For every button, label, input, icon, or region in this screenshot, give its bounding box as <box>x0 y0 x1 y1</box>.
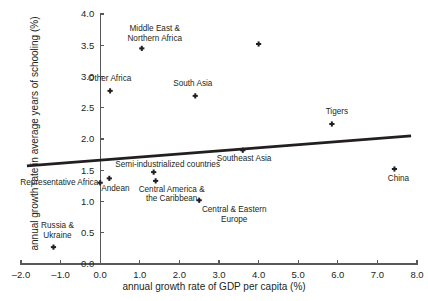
y-tick-label: 4.0 <box>81 8 94 19</box>
data-point <box>392 166 397 171</box>
x-tick-label: 7.0 <box>371 269 384 280</box>
y-tick-label: 2.5 <box>81 102 94 113</box>
data-point <box>139 46 144 51</box>
x-tick-label: 6.0 <box>331 269 344 280</box>
x-tick-label: 0.0 <box>94 269 107 280</box>
data-point-marker <box>393 166 395 171</box>
data-point-marker <box>198 198 200 203</box>
y-tick-label: 3.5 <box>81 40 94 51</box>
data-point-marker <box>52 245 54 250</box>
y-tick-label: 1.0 <box>81 196 94 207</box>
x-tick-label: 1.0 <box>133 269 146 280</box>
x-tick-label: –2.0 <box>12 269 31 280</box>
data-point-marker <box>258 41 260 46</box>
data-point-marker <box>108 176 110 181</box>
data-point <box>153 178 158 183</box>
data-point-marker <box>194 93 196 98</box>
x-tick-label: 3.0 <box>212 269 225 280</box>
data-point <box>98 180 103 185</box>
data-point <box>329 121 334 126</box>
x-tick-label: 2.0 <box>173 269 186 280</box>
data-point <box>108 88 113 93</box>
y-tick-label: 0.0 <box>81 258 94 269</box>
y-tick-label: 0.5 <box>81 227 94 238</box>
x-tick-label: 4.0 <box>252 269 265 280</box>
y-tick-label: 2.0 <box>81 133 94 144</box>
data-point <box>151 170 156 175</box>
data-point <box>256 41 261 46</box>
data-point-marker <box>153 170 155 175</box>
x-tick-label: 8.0 <box>410 269 423 280</box>
x-axis-title: annual growth rate of GDP per capita (%) <box>0 281 428 292</box>
data-point-marker <box>109 88 111 93</box>
data-point <box>197 198 202 203</box>
x-tick-label: –1.0 <box>51 269 70 280</box>
data-point-marker <box>155 178 157 183</box>
data-point <box>107 176 112 181</box>
y-axis-title: annual growth rate in average years of s… <box>29 4 40 264</box>
data-point-marker <box>99 180 101 185</box>
data-point-marker <box>331 121 333 126</box>
x-tick-label: 5.0 <box>292 269 305 280</box>
y-tick-label: 1.5 <box>81 165 94 176</box>
data-point <box>51 245 56 250</box>
data-point-marker <box>141 46 143 51</box>
data-point-marker <box>242 148 244 153</box>
scatter-chart: –2.0–1.00.01.02.03.04.05.06.07.08.00.00.… <box>0 0 428 301</box>
y-tick-label: 3.0 <box>81 71 94 82</box>
chart-plot-area: –2.0–1.00.01.02.03.04.05.06.07.08.00.00.… <box>0 0 428 301</box>
data-point <box>193 93 198 98</box>
